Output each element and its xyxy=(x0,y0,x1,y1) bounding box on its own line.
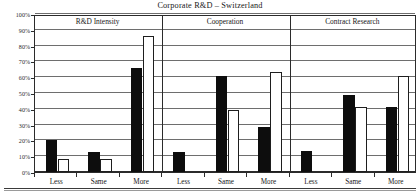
x-axis-tick xyxy=(34,173,35,177)
bar-light xyxy=(58,159,70,172)
bar-light xyxy=(143,36,155,172)
x-axis-label-less: Less xyxy=(50,178,63,186)
bar-dark xyxy=(46,140,58,172)
bar-light xyxy=(270,72,282,172)
plot-area xyxy=(34,15,416,173)
bar-light xyxy=(355,107,367,172)
plot-inner xyxy=(35,16,415,172)
group-label-1: R&D Intensity xyxy=(34,17,161,26)
chart-figure: Corporate R&D – Switzerland 0%10%20%30%4… xyxy=(0,0,420,196)
x-axis-tick xyxy=(331,173,332,177)
gridline-70 xyxy=(35,60,415,61)
y-axis-tick-label: 90% xyxy=(0,28,30,34)
y-axis-tick-label: 80% xyxy=(0,44,30,50)
chart-title: Corporate R&D – Switzerland xyxy=(0,1,420,10)
x-axis-label-same: Same xyxy=(345,178,361,186)
gridline-100 xyxy=(35,13,415,14)
bar-dark xyxy=(301,151,313,172)
bar-light xyxy=(100,159,112,172)
y-axis-tick-label: 0% xyxy=(0,170,30,176)
x-axis-label-more: More xyxy=(261,178,277,186)
x-axis-label-same: Same xyxy=(91,178,107,186)
x-axis-label-less: Less xyxy=(177,178,190,186)
gridline-80 xyxy=(35,45,415,46)
y-axis-tick-label: 100% xyxy=(0,12,30,18)
y-axis-tick-label: 10% xyxy=(0,154,30,160)
group-separator xyxy=(290,16,291,172)
x-axis-tick xyxy=(204,173,205,177)
y-axis-tick-label: 20% xyxy=(0,138,30,144)
bar-dark xyxy=(173,152,185,172)
y-axis-tick-label: 40% xyxy=(0,107,30,113)
x-axis-tick xyxy=(161,173,162,177)
y-axis-tick-label: 30% xyxy=(0,123,30,129)
bar-dark xyxy=(386,107,398,172)
x-axis-tick xyxy=(246,173,247,177)
x-axis-label-more: More xyxy=(133,178,149,186)
group-label-2: Cooperation xyxy=(161,17,288,26)
bar-dark xyxy=(343,95,355,172)
bar-light xyxy=(398,76,410,172)
x-axis-label-less: Less xyxy=(304,178,317,186)
bar-dark xyxy=(88,152,100,172)
bar-dark xyxy=(258,127,270,172)
group-separator xyxy=(162,16,163,172)
x-axis-tick xyxy=(76,173,77,177)
y-axis-tick-label: 60% xyxy=(0,75,30,81)
x-axis-label-same: Same xyxy=(218,178,234,186)
bar-dark xyxy=(131,68,143,172)
x-axis-tick xyxy=(374,173,375,177)
x-axis-label-more: More xyxy=(388,178,404,186)
y-axis-tick-label: 50% xyxy=(0,91,30,97)
x-axis-tick xyxy=(289,173,290,177)
gridline-90 xyxy=(35,29,415,30)
bar-light xyxy=(228,110,240,172)
bar-dark xyxy=(216,76,228,172)
y-axis-tick-label: 70% xyxy=(0,59,30,65)
footer-rule xyxy=(4,188,416,189)
footer-rule-shadow xyxy=(4,190,416,191)
group-label-3: Contract Research xyxy=(289,17,416,26)
x-axis-tick xyxy=(119,173,120,177)
